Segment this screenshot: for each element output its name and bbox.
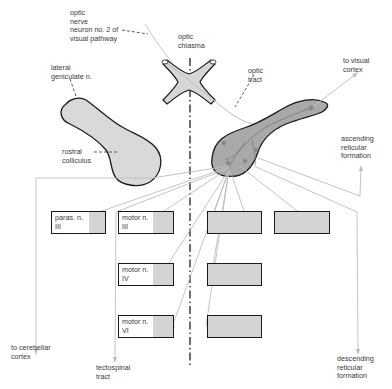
box-motor-n-iii-right (207, 211, 262, 234)
label-lateral-geniculate: lateral geniculate n. (51, 64, 92, 81)
efferent-projections (36, 158, 361, 360)
box-motor-n-vi-left: motor n. VI (118, 315, 174, 338)
chiasma-cut-end (162, 60, 168, 64)
box-paras-n-iii-right (274, 211, 330, 234)
label-to-cerebellar-cortex: to cerebellar cortex (11, 344, 51, 361)
label-descending-reticular-formation: descending reticular formation (337, 355, 374, 381)
chiasma-cut-end (210, 60, 216, 64)
arrowhead-icon (359, 165, 363, 171)
neuron-soma (243, 159, 247, 163)
optic-nerve-line (145, 24, 172, 62)
label-tectospinal-tract: tectospinal tract (96, 364, 130, 381)
box-paras-n-iii: paras. n. III (51, 211, 106, 234)
diagram-canvas (0, 0, 392, 389)
box-motor-n-iii-left: motor n. III (118, 211, 174, 234)
neuron-soma (226, 161, 230, 165)
visual-pathway-diagram: optic nerve neuron no. 2 of visual pathw… (0, 0, 392, 389)
to-visual-cortex-line (314, 74, 356, 106)
label-rostral-colliculus: rostral colliculus (62, 148, 91, 165)
box-motor-n-iv-left: motor n. IV (118, 263, 174, 286)
neuron-soma (254, 148, 258, 152)
left-lateral-geniculate-colliculus (61, 98, 161, 185)
label-optic-nerve: optic nerve neuron no. 2 of visual pathw… (70, 9, 118, 43)
label-to-visual-cortex: to visual cortex (343, 57, 369, 74)
box-motor-n-iv-right (207, 263, 262, 286)
label-optic-tract: optic tract (248, 67, 263, 84)
box-label: motor n. III (119, 212, 153, 233)
box-motor-n-vi-right (207, 315, 262, 338)
lateral-geniculate-leader (70, 79, 76, 96)
label-optic-chiasma: optic chiasma (178, 33, 205, 50)
neuron-soma (222, 141, 226, 145)
box-label: motor n. IV (119, 264, 153, 285)
box-label: motor n. VI (119, 316, 153, 337)
optic-nerve-leader (122, 30, 148, 34)
box-label: paras. n. III (52, 212, 89, 233)
neuron-soma (309, 106, 314, 111)
label-ascending-reticular-formation: ascending reticular formation (341, 135, 374, 161)
